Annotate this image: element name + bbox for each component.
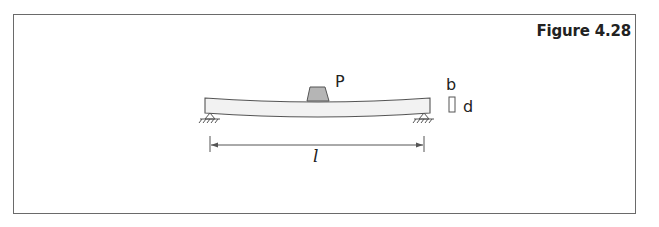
span-label: l: [313, 146, 318, 166]
point-load-block: [307, 87, 329, 101]
left-pin-support-icon: [199, 113, 220, 123]
cross-section-icon: [449, 97, 455, 112]
width-label: b: [446, 75, 456, 94]
beam-diagram: P b d l: [0, 0, 659, 227]
load-label: P: [335, 72, 345, 91]
depth-label: d: [463, 97, 473, 116]
right-pin-support-icon: [413, 113, 434, 123]
